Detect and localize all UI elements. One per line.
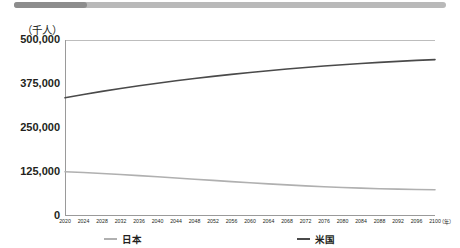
line-japan — [65, 172, 435, 190]
x-tick-label: 2060 — [244, 218, 256, 224]
y-tick-label: 0 — [2, 209, 60, 221]
legend-color-swatch — [104, 238, 117, 240]
x-tick-label: 2076 — [318, 218, 330, 224]
x-tick-label: 2068 — [281, 218, 293, 224]
x-axis-tick-labels: 2020202420282032203620402044204820522056… — [65, 218, 435, 230]
y-tick-label: 375,000 — [2, 77, 60, 89]
x-tick-label: 2032 — [115, 218, 127, 224]
x-tick-label: 2044 — [170, 218, 182, 224]
legend-item[interactable]: 米国 — [297, 232, 335, 246]
x-tick-label: 2020 — [59, 218, 71, 224]
y-tick-label: 125,000 — [2, 165, 60, 177]
x-axis-unit-label: （年） — [439, 218, 454, 225]
x-tick-label: 2080 — [337, 218, 349, 224]
x-tick-label: 2072 — [300, 218, 312, 224]
y-axis-tick-labels: 500,000375,000250,000125,0000 — [0, 10, 60, 248]
series-lines — [65, 40, 435, 216]
x-tick-label: 2084 — [355, 218, 367, 224]
chart-page: （千人） 500,000375,000250,000125,0000 20202… — [0, 0, 460, 248]
x-tick-label: 2092 — [392, 218, 404, 224]
x-tick-label: 2024 — [78, 218, 90, 224]
x-tick-label: 2056 — [226, 218, 238, 224]
plot-area — [65, 40, 435, 216]
x-tick-label: 2064 — [263, 218, 275, 224]
scrollbar-thumb[interactable] — [14, 2, 87, 8]
x-tick-label: 2048 — [189, 218, 201, 224]
x-tick-label: 2028 — [96, 218, 108, 224]
line-usa — [65, 60, 435, 98]
x-tick-label: 2040 — [152, 218, 164, 224]
x-tick-label: 2096 — [411, 218, 423, 224]
y-tick-label: 250,000 — [2, 121, 60, 133]
legend-item[interactable]: 日本 — [104, 232, 142, 246]
legend-label: 日本 — [122, 232, 142, 246]
x-tick-label: 2088 — [374, 218, 386, 224]
x-tick-label: 2052 — [207, 218, 219, 224]
x-tick-label: 2036 — [133, 218, 145, 224]
chart-legend: 日本米国 — [0, 232, 460, 248]
population-projection-chart: （千人） 500,000375,000250,000125,0000 20202… — [0, 10, 460, 248]
legend-label: 米国 — [315, 232, 335, 246]
legend-color-swatch — [297, 238, 310, 240]
y-tick-label: 500,000 — [2, 33, 60, 45]
